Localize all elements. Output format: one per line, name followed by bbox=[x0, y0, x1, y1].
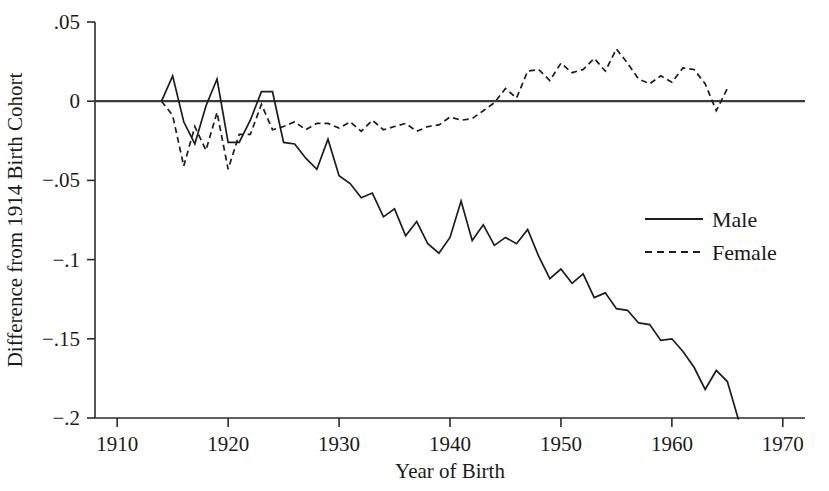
y-axis-title: Difference from 1914 Birth Cohort bbox=[3, 72, 27, 367]
series-line-female bbox=[162, 49, 728, 169]
series-line-male bbox=[162, 76, 739, 420]
x-tick-label: 1960 bbox=[651, 432, 693, 456]
legend-label-female: Female bbox=[712, 240, 777, 265]
x-axis-title: Year of Birth bbox=[395, 459, 505, 483]
x-tick-label: 1940 bbox=[429, 432, 471, 456]
y-axis-ticks: .050−.05−.1−.15−.2 bbox=[42, 10, 95, 430]
line-chart: .050−.05−.1−.15−.2 191019201930194019501… bbox=[0, 0, 829, 491]
x-tick-label: 1930 bbox=[318, 432, 360, 456]
x-tick-label: 1970 bbox=[762, 432, 804, 456]
y-tick-label: −.05 bbox=[42, 168, 80, 192]
y-tick-label: .05 bbox=[54, 10, 80, 34]
y-tick-label: 0 bbox=[70, 89, 81, 113]
legend: Male Female bbox=[645, 207, 777, 265]
x-tick-label: 1920 bbox=[207, 432, 249, 456]
legend-label-male: Male bbox=[712, 207, 757, 232]
y-tick-label: −.15 bbox=[42, 327, 80, 351]
x-tick-label: 1950 bbox=[540, 432, 582, 456]
x-tick-label: 1910 bbox=[96, 432, 138, 456]
chart-figure: .050−.05−.1−.15−.2 191019201930194019501… bbox=[0, 0, 829, 491]
y-tick-label: −.2 bbox=[52, 406, 80, 430]
x-axis-ticks: 1910192019301940195019601970 bbox=[96, 418, 804, 456]
y-tick-label: −.1 bbox=[52, 248, 80, 272]
